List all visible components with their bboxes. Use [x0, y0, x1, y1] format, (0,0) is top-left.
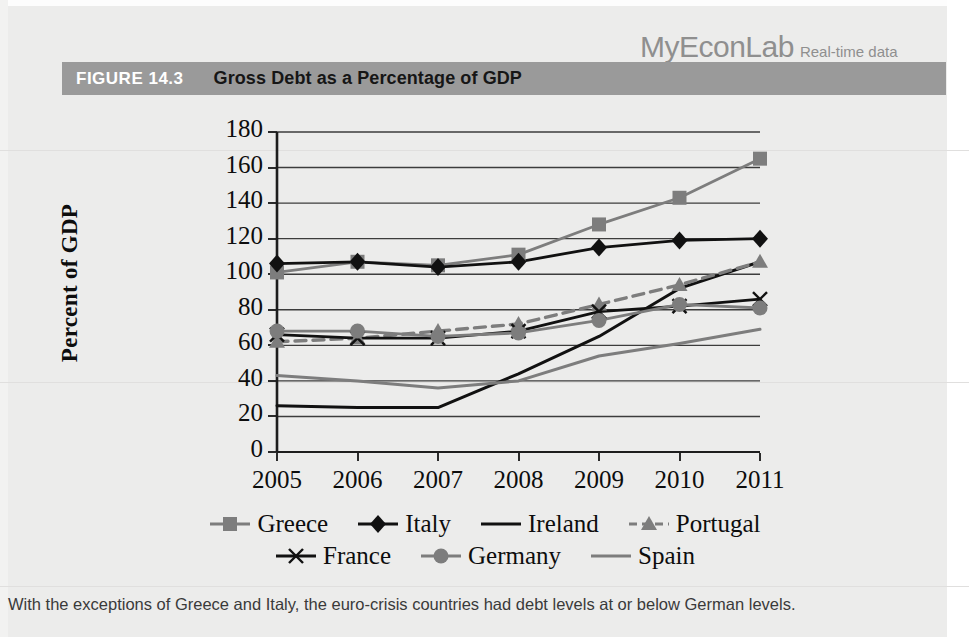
legend-swatch-greece: [208, 515, 252, 533]
data-point-germany: [350, 324, 365, 339]
marker-triangle: [752, 254, 768, 268]
legend-swatch-italy: [356, 515, 400, 533]
marker-circle: [672, 297, 687, 312]
data-point-germany: [592, 313, 607, 328]
chart-legend: GreeceItalyIrelandPortugalFranceGermanyS…: [0, 508, 969, 572]
series-marker-diamond: [370, 515, 386, 533]
legend-item-greece[interactable]: Greece: [208, 510, 328, 538]
legend-swatch-portugal: [627, 515, 671, 533]
figure-caption: With the exceptions of Greece and Italy,…: [8, 592, 868, 616]
marker-circle: [592, 313, 607, 328]
marker-circle: [350, 324, 365, 339]
figure-title: Gross Debt as a Percentage of GDP: [214, 68, 522, 89]
data-point-greece: [753, 152, 767, 166]
data-point-germany: [431, 329, 446, 344]
legend-label: France: [323, 542, 391, 570]
marker-diamond: [752, 230, 768, 248]
legend-row: GreeceItalyIrelandPortugal: [0, 508, 969, 540]
marker-diamond: [591, 239, 607, 257]
series-marker-circle: [434, 549, 449, 564]
legend-item-portugal[interactable]: Portugal: [627, 510, 761, 538]
page-rule: [0, 586, 969, 587]
marker-circle: [431, 329, 446, 344]
realtime-data-label: Real-time data: [800, 43, 898, 60]
legend-item-germany[interactable]: Germany: [419, 542, 561, 570]
myeconlab-branding: MyEconLab Real-time data: [640, 30, 897, 64]
myeconlab-logo-text: MyEconLab: [640, 30, 794, 64]
legend-label: Italy: [405, 510, 451, 538]
data-point-italy: [672, 231, 688, 249]
marker-circle: [511, 325, 526, 340]
data-point-portugal: [752, 254, 768, 268]
page-top-edge: [0, 0, 969, 6]
marker-diamond: [672, 231, 688, 249]
marker-circle: [434, 549, 449, 564]
legend-row: FranceGermanySpain: [0, 540, 969, 572]
legend-item-france[interactable]: France: [274, 542, 391, 570]
series-marker-square: [223, 517, 237, 531]
legend-label: Portugal: [676, 510, 761, 538]
legend-swatch-ireland: [479, 515, 523, 533]
chart-area: Percent of GDP 0204060801001201401601802…: [0, 100, 969, 500]
legend-swatch-germany: [419, 547, 463, 565]
legend-label: Ireland: [528, 510, 599, 538]
data-point-germany: [511, 325, 526, 340]
legend-item-ireland[interactable]: Ireland: [479, 510, 599, 538]
data-point-greece: [673, 191, 687, 205]
legend-label: Germany: [468, 542, 561, 570]
legend-swatch-spain: [589, 547, 633, 565]
legend-label: Greece: [257, 510, 328, 538]
legend-item-italy[interactable]: Italy: [356, 510, 451, 538]
data-point-greece: [592, 217, 606, 231]
marker-circle: [753, 301, 768, 316]
marker-square: [592, 217, 606, 231]
marker-circle: [270, 324, 285, 339]
legend-item-spain[interactable]: Spain: [589, 542, 695, 570]
plot-svg: [0, 100, 969, 500]
legend-label: Spain: [638, 542, 695, 570]
data-point-italy: [752, 230, 768, 248]
marker-square: [753, 152, 767, 166]
data-point-italy: [591, 239, 607, 257]
figure-number: FIGURE 14.3: [76, 69, 184, 89]
figure-page: MyEconLab Real-time data FIGURE 14.3 Gro…: [0, 0, 969, 637]
legend-swatch-france: [274, 547, 318, 565]
data-point-germany: [753, 301, 768, 316]
marker-square: [673, 191, 687, 205]
marker-square: [223, 517, 237, 531]
figure-header-bar: FIGURE 14.3 Gross Debt as a Percentage o…: [62, 62, 946, 95]
data-point-germany: [672, 297, 687, 312]
data-point-germany: [270, 324, 285, 339]
marker-diamond: [370, 515, 386, 533]
